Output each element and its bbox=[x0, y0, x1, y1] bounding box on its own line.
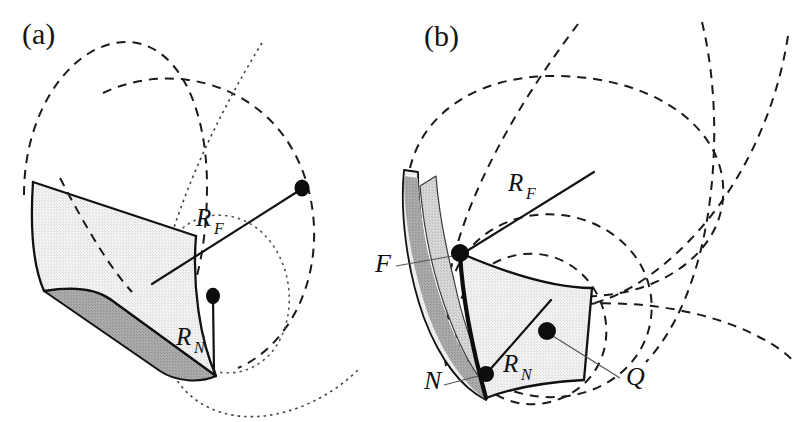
panel-label-b: (b) bbox=[424, 19, 459, 53]
dashed-vertical-arc-right-b bbox=[646, 22, 714, 362]
center-far-dot-a bbox=[295, 179, 310, 196]
panel-label-a: (a) bbox=[22, 17, 55, 51]
panel-b: (b) R F R N F N Q bbox=[374, 19, 794, 404]
annotation-R-N-a-subscript: N bbox=[193, 339, 206, 356]
dashed-top-ellipse-b bbox=[410, 76, 723, 296]
point-label-N-b: N bbox=[423, 366, 443, 395]
annotation-R-N-b-base: R bbox=[502, 350, 518, 377]
figure-root: (a) R F R N bbox=[0, 0, 796, 422]
point-label-Q-b: Q bbox=[626, 362, 645, 391]
point-F-dot-b bbox=[451, 244, 469, 262]
annotation-R-N-a-base: R bbox=[175, 323, 191, 350]
annotation-R-F-a: R F bbox=[195, 204, 224, 237]
annotation-R-F-a-base: R bbox=[195, 204, 211, 231]
point-label-F-b: F bbox=[374, 249, 392, 278]
center-near-dot-a bbox=[206, 288, 220, 304]
figure-canvas: (a) R F R N bbox=[0, 0, 796, 422]
annotation-R-F-b: R F bbox=[507, 169, 536, 202]
annotation-R-F-a-subscript: F bbox=[213, 220, 224, 237]
annotation-R-N-b-subscript: N bbox=[520, 366, 533, 383]
point-N-dot-b bbox=[478, 366, 494, 382]
point-Q-dot-b bbox=[538, 322, 556, 340]
radius-near-line-a bbox=[213, 298, 214, 372]
annotation-R-F-b-base: R bbox=[507, 169, 523, 196]
annotation-R-F-b-subscript: F bbox=[525, 185, 536, 202]
panel-a: (a) R F R N bbox=[22, 17, 360, 417]
